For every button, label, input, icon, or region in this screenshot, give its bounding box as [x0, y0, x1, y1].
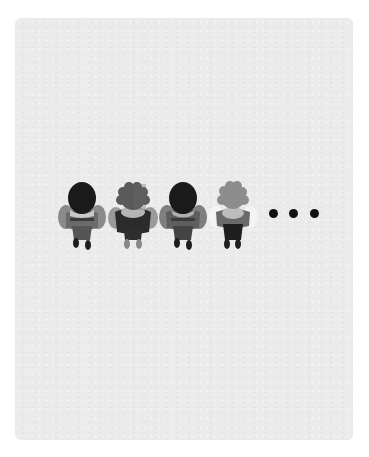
person-figure-2: [107, 180, 159, 250]
ellipsis-dot-2: [289, 209, 298, 218]
person-figure-4: [207, 180, 259, 250]
person-figure-3: [157, 180, 209, 250]
ellipsis-dot-1: [269, 209, 278, 218]
ellipsis-dot-3: [310, 209, 319, 218]
person-figure-1: [56, 180, 108, 250]
